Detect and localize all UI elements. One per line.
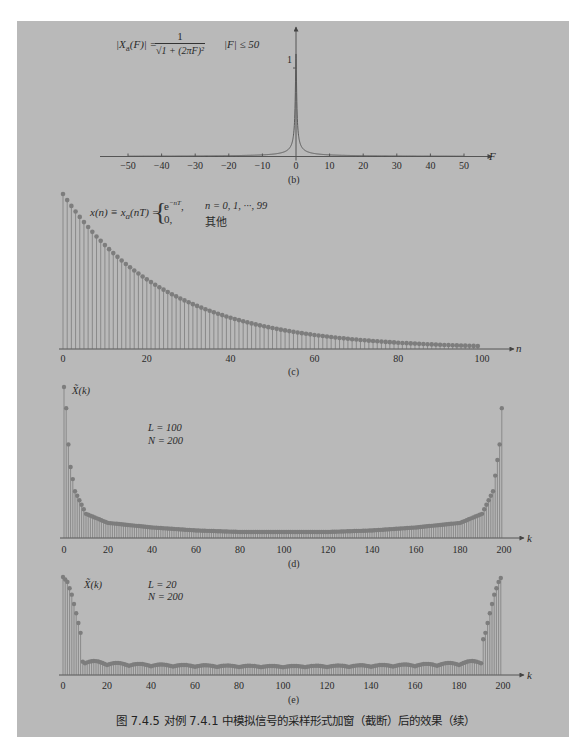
x-tick-label: 180	[448, 544, 472, 555]
x-tick-label: 40	[139, 680, 163, 691]
x-tick-label: 20	[135, 353, 159, 364]
x-tick-label: 20	[95, 680, 119, 691]
x-tick-label: −50	[116, 160, 140, 171]
x-tick-label: 20	[351, 160, 375, 171]
x-tick-label: 10	[318, 160, 342, 171]
plot-d-x-axis-label: k	[527, 532, 532, 544]
x-tick-label: 80	[386, 353, 410, 364]
plot-b-y-tick: 1	[287, 54, 292, 65]
formula-lhs: x(n) ≡ x	[90, 206, 126, 218]
x-tick-label: 0	[284, 160, 308, 171]
plot-c-x-axis-label: n	[516, 342, 522, 354]
plot-e-sublabel: (e)	[288, 694, 299, 705]
plot-d-param-L: L = 100	[148, 422, 182, 433]
plot-e	[59, 575, 524, 675]
case1-sup: −nT	[169, 199, 181, 207]
plot-c-case1-cond: n = 0, 1, ···, 99	[205, 200, 267, 211]
x-tick-label: −30	[183, 160, 207, 171]
x-tick-label: 140	[359, 680, 383, 691]
plot-d	[60, 385, 524, 538]
plot-b-fraction: 1 √1 + (2πF)²	[155, 30, 205, 57]
x-tick-label: 0	[51, 680, 75, 691]
x-tick-label: −20	[217, 160, 241, 171]
plot-d-param-N: N = 200	[148, 435, 183, 446]
plot-b-condition: |F| ≤ 50	[224, 38, 259, 50]
plot-e-x-axis-label: k	[527, 669, 532, 681]
x-tick-label: 80	[228, 544, 252, 555]
x-tick-label: 160	[403, 680, 427, 691]
x-tick-label: 20	[96, 544, 120, 555]
x-tick-label: 160	[404, 544, 428, 555]
x-tick-label: 100	[470, 353, 494, 364]
plot-e-param-N: N = 200	[148, 591, 183, 602]
x-tick-label: 30	[385, 160, 409, 171]
fraction-numerator: 1	[155, 30, 205, 44]
x-tick-label: −10	[250, 160, 274, 171]
x-tick-label: 40	[219, 353, 243, 364]
plot-c-case1: e−nT,	[164, 199, 184, 212]
x-tick-label: 200	[491, 680, 515, 691]
x-tick-label: 0	[52, 544, 76, 555]
plot-c-formula: x(n) ≡ xa(nT) =	[90, 206, 159, 221]
x-tick-label: 80	[227, 680, 251, 691]
x-tick-label: 180	[447, 680, 471, 691]
x-tick-label: 120	[315, 680, 339, 691]
plot-c-case2-cond: 其他	[205, 213, 227, 229]
plot-e-param-L: L = 20	[148, 579, 177, 590]
figure-caption: 图 7.4.5 对例 7.4.1 中模拟信号的采样形式加窗（截断）后的效果（续）	[116, 712, 475, 728]
x-tick-label: 60	[183, 680, 207, 691]
x-tick-label: 60	[184, 544, 208, 555]
x-tick-label: 40	[418, 160, 442, 171]
plot-d-sublabel: (d)	[288, 558, 300, 569]
plot-b-sublabel: (b)	[288, 174, 300, 185]
x-tick-label: 40	[140, 544, 164, 555]
x-tick-label: 120	[316, 544, 340, 555]
plot-e-y-label: X̃(k)	[84, 579, 102, 590]
plot-b-x-axis-label: F	[489, 150, 496, 162]
plot-c-sublabel: (c)	[288, 366, 299, 377]
plot-d-y-label: X̃(k)	[72, 385, 90, 396]
x-tick-label: −40	[150, 160, 174, 171]
formula-lhs: |X	[116, 38, 126, 50]
x-tick-label: 0	[51, 353, 75, 364]
x-tick-label: 50	[452, 160, 476, 171]
fraction-denominator: √1 + (2πF)²	[155, 44, 205, 57]
plot-c-case2: 0,	[164, 213, 172, 225]
x-tick-label: 100	[272, 544, 296, 555]
plot-b-formula: |Xa(F)| =	[116, 38, 157, 53]
x-tick-label: 140	[360, 544, 384, 555]
x-tick-label: 60	[302, 353, 326, 364]
formula-mid: (F)| =	[130, 38, 157, 50]
x-tick-label: 100	[271, 680, 295, 691]
x-tick-label: 200	[492, 544, 516, 555]
